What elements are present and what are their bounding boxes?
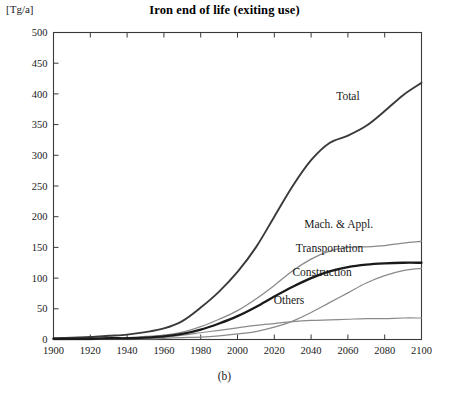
plot-canvas: 0501001502002503003504004505001900192019… (0, 0, 449, 396)
series-line-transportation (54, 268, 422, 339)
series-label-mach-appl: Mach. & Appl. (304, 218, 373, 231)
y-axis-tick-label-400: 400 (32, 89, 48, 100)
x-axis-tick-label-2020: 2020 (264, 345, 285, 356)
x-axis-tick-label-2000: 2000 (227, 345, 248, 356)
y-axis-tick-label-150: 150 (32, 242, 48, 253)
series-line-total (54, 83, 422, 338)
x-axis-tick-label-1980: 1980 (190, 345, 211, 356)
series-label-total: Total (336, 90, 359, 102)
series-line-mach-appl (54, 241, 422, 339)
y-axis-tick-label-250: 250 (32, 181, 48, 192)
chart-figure: [Tg/a] Iron end of life (exiting use) 05… (0, 0, 449, 396)
series-label-transportation: Transportation (296, 242, 364, 255)
y-axis-tick-label-300: 300 (32, 150, 48, 161)
y-axis-tick-label-0: 0 (42, 334, 47, 345)
x-axis-tick-label-2060: 2060 (337, 345, 358, 356)
y-axis-tick-label-500: 500 (32, 27, 48, 38)
y-axis-tick-label-50: 50 (37, 303, 48, 314)
plot-frame (54, 33, 422, 340)
x-axis-tick-label-2040: 2040 (301, 345, 322, 356)
x-axis-tick-label-2100: 2100 (411, 345, 432, 356)
series-label-others: Others (274, 294, 305, 306)
x-axis-tick-label-1900: 1900 (43, 345, 64, 356)
y-axis-tick-label-100: 100 (32, 273, 48, 284)
x-axis-tick-label-1940: 1940 (117, 345, 138, 356)
x-axis-tick-label-1920: 1920 (80, 345, 101, 356)
x-axis-tick-label-2080: 2080 (374, 345, 395, 356)
y-axis-tick-label-200: 200 (32, 211, 48, 222)
y-axis-tick-label-450: 450 (32, 58, 48, 69)
series-label-construction: Construction (292, 266, 352, 278)
y-axis-tick-label-350: 350 (32, 119, 48, 130)
figure-caption: (b) (0, 370, 449, 382)
x-axis-tick-label-1960: 1960 (153, 345, 174, 356)
